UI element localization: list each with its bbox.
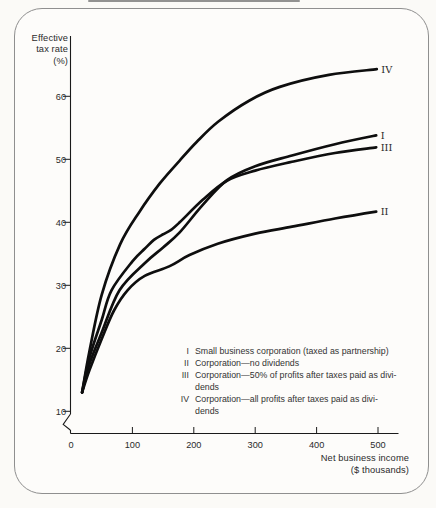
x-axis-title-line2: ($ thousands): [277, 464, 409, 476]
x-tick-label-500: 500: [370, 440, 385, 450]
legend-label: Corporation—50% of profits after taxes p…: [195, 369, 396, 393]
legend-label: Corporation—all profits after taxes paid…: [195, 393, 378, 417]
x-tick-label-400: 400: [309, 440, 324, 450]
y-axis-title-line3: (%): [0, 56, 68, 67]
curve-IV: [82, 69, 377, 392]
legend-item-III: IIICorporation—50% of profits after taxe…: [176, 369, 396, 393]
tax-rate-chart: 1020304050600100200300400500IIIIIIIV: [0, 0, 436, 508]
x-axis-title: Net business income ($ thousands): [277, 452, 409, 476]
y-tick-label-60: 60: [56, 92, 66, 102]
curve-label-IV: IV: [381, 64, 393, 75]
legend-label: Small business corporation (taxed as par…: [195, 345, 389, 357]
curve-label-II: II: [381, 206, 389, 217]
x-tick-label-100: 100: [125, 440, 140, 450]
legend-numeral: I: [176, 345, 189, 357]
chart-legend: ISmall business corporation (taxed as pa…: [176, 345, 396, 417]
y-axis-title-line1: Effective: [0, 33, 68, 44]
legend-numeral: II: [176, 357, 189, 369]
y-axis-title: Effective tax rate (%): [0, 33, 68, 67]
legend-item-I: ISmall business corporation (taxed as pa…: [176, 345, 396, 357]
x-axis-title-line1: Net business income: [277, 452, 409, 464]
legend-item-II: IICorporation—no dividends: [176, 357, 396, 369]
curve-label-III: III: [381, 142, 393, 153]
y-tick-label-20: 20: [56, 344, 66, 354]
y-tick-label-10: 10: [56, 407, 66, 417]
legend-numeral: IV: [176, 393, 189, 417]
y-tick-label-30: 30: [56, 281, 66, 291]
x-tick-label-300: 300: [248, 440, 263, 450]
curve-label-I: I: [381, 130, 385, 141]
y-tick-label-50: 50: [56, 155, 66, 165]
legend-item-IV: IVCorporation—all profits after taxes pa…: [176, 393, 396, 417]
y-axis-title-line2: tax rate: [0, 44, 68, 55]
x-tick-label-0: 0: [68, 440, 73, 450]
x-tick-label-200: 200: [186, 440, 201, 450]
legend-label: Corporation—no dividends: [195, 357, 299, 369]
legend-numeral: III: [176, 369, 189, 393]
y-tick-label-40: 40: [56, 218, 66, 228]
